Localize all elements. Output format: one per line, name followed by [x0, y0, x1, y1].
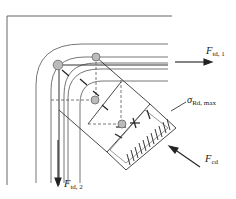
- arrowhead-right-icon: [204, 59, 212, 65]
- strut-upper: [96, 57, 150, 104]
- node-lower: [118, 120, 126, 128]
- node-top: [92, 53, 100, 61]
- stress-hatching: [127, 119, 170, 165]
- sigma-leader-line: [171, 102, 186, 111]
- node-corner: [53, 60, 63, 70]
- node-mid: [91, 96, 99, 104]
- concrete-outline: [7, 16, 172, 185]
- arrow-ftd2: [55, 140, 61, 186]
- label-ftd1: Ftd, 1: [205, 45, 225, 58]
- arrowhead-up-left-icon: [169, 146, 178, 153]
- frame-corner-diagram: Ftd, 1 Ftd, 2 Fcd σRd, max: [0, 0, 236, 199]
- arrow-ftd1: [175, 59, 212, 65]
- label-fcd: Fcd: [204, 153, 219, 166]
- arrowhead-down-icon: [55, 178, 61, 186]
- tick-marks: [62, 70, 150, 138]
- outer-edge: [7, 16, 172, 185]
- labels: Ftd, 1 Ftd, 2 Fcd σRd, max: [63, 45, 225, 191]
- strut-lower: [59, 110, 107, 152]
- struts: [59, 57, 150, 152]
- ties: [59, 65, 168, 185]
- compression-block: [107, 104, 176, 170]
- label-sigma-rd-max: σRd, max: [187, 94, 216, 107]
- arrow-fcd: [169, 146, 200, 167]
